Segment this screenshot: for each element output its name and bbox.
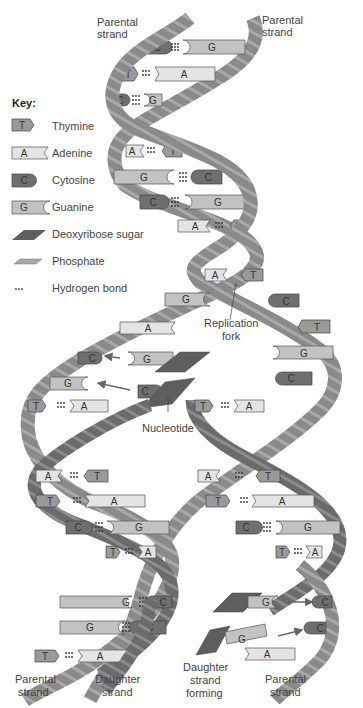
- label-parental-bottom-right-2: strand: [270, 686, 301, 698]
- svg-text:T: T: [33, 401, 39, 412]
- svg-text:C: C: [149, 197, 156, 208]
- svg-text:T: T: [42, 651, 48, 662]
- svg-text:T: T: [265, 471, 271, 482]
- svg-text:A: A: [246, 401, 253, 412]
- svg-text:G: G: [262, 597, 270, 608]
- key-label-thymine: Thymine: [52, 120, 94, 132]
- svg-text:T: T: [110, 547, 116, 558]
- thymine-icon: T: [12, 119, 34, 131]
- label-replication-fork-1: Replication: [204, 317, 258, 329]
- svg-text:G: G: [214, 197, 222, 208]
- label-parental-bottom-right-1: Parental: [265, 673, 306, 685]
- phosphate-icon: [14, 259, 42, 264]
- svg-text:G: G: [122, 597, 130, 608]
- svg-text:G: G: [300, 348, 308, 359]
- label-daughter-2: strand: [102, 686, 133, 698]
- svg-text:A: A: [145, 547, 152, 558]
- svg-text:G: G: [20, 202, 28, 213]
- svg-text:C: C: [74, 522, 81, 533]
- svg-text:A: A: [279, 496, 286, 507]
- key-title: Key:: [12, 97, 36, 109]
- svg-text:G: G: [140, 172, 148, 183]
- svg-text:T: T: [200, 401, 206, 412]
- svg-text:C: C: [159, 597, 166, 608]
- left-daughter-helix: T A A T T A C G T A G C G C T: [28, 400, 172, 690]
- label-daughter-1: Daughter: [95, 673, 141, 685]
- svg-text:A: A: [181, 69, 188, 80]
- key-label-adenine: Adenine: [52, 147, 92, 159]
- svg-text:G: G: [149, 95, 157, 106]
- svg-text:G: G: [64, 378, 72, 389]
- svg-text:C: C: [282, 296, 289, 307]
- label-daughter-forming-2: strand: [190, 674, 221, 686]
- svg-text:C: C: [287, 373, 294, 384]
- svg-text:G: G: [238, 634, 246, 645]
- svg-text:C: C: [141, 386, 148, 397]
- key-label-guanine: Guanine: [52, 201, 94, 213]
- svg-text:A: A: [21, 148, 28, 159]
- label-daughter-forming-3: forming: [186, 687, 223, 699]
- key-label-hydrogen-bond: Hydrogen bond: [52, 282, 127, 294]
- label-parental-top-left-2: strand: [97, 28, 128, 40]
- svg-text:A: A: [97, 651, 104, 662]
- svg-text:A: A: [111, 496, 118, 507]
- svg-text:C: C: [242, 522, 249, 533]
- svg-text:A: A: [192, 221, 199, 232]
- label-parental-bottom-left-1: Parental: [15, 673, 56, 685]
- svg-text:T: T: [279, 547, 285, 558]
- svg-text:T: T: [215, 496, 221, 507]
- key-label-phosphate: Phosphate: [52, 255, 105, 267]
- label-parental-top-left-1: Parental: [97, 16, 138, 28]
- svg-text:G: G: [182, 294, 190, 305]
- svg-text:C: C: [204, 172, 211, 183]
- guanine-icon: G: [12, 201, 50, 214]
- label-daughter-forming-1: Daughter: [183, 661, 229, 673]
- label-parental-top-right-2: strand: [262, 26, 293, 38]
- svg-text:T: T: [19, 120, 25, 131]
- hydrogen-bond-icon: [15, 288, 23, 290]
- key-label-cytosine: Cytosine: [52, 174, 95, 186]
- svg-text:T: T: [47, 496, 53, 507]
- svg-text:A: A: [205, 471, 212, 482]
- sugar-forming-2: [196, 626, 230, 655]
- label-parental-bottom-left-2: strand: [18, 686, 49, 698]
- svg-text:T: T: [314, 322, 320, 333]
- label-replication-fork-2: fork: [222, 330, 241, 342]
- svg-text:A: A: [312, 547, 319, 558]
- svg-text:A: A: [45, 471, 52, 482]
- label-parental-top-right-1: Parental: [262, 14, 303, 26]
- svg-text:C: C: [20, 175, 27, 186]
- cytosine-icon: C: [12, 174, 37, 187]
- adenine-icon: A: [12, 147, 48, 159]
- svg-text:C: C: [88, 353, 95, 364]
- sugar-icon: [12, 230, 46, 240]
- svg-text:T: T: [250, 270, 256, 281]
- svg-text:T: T: [94, 471, 100, 482]
- svg-text:A: A: [129, 146, 136, 157]
- svg-text:A: A: [145, 323, 152, 334]
- svg-text:G: G: [86, 622, 94, 633]
- key-label-sugar: Deoxyribose sugar: [52, 228, 144, 240]
- svg-text:A: A: [212, 270, 219, 281]
- svg-text:C: C: [321, 597, 328, 608]
- svg-text:A: A: [81, 401, 88, 412]
- svg-text:G: G: [304, 522, 312, 533]
- svg-text:G: G: [143, 354, 151, 365]
- svg-text:G: G: [135, 522, 143, 533]
- dna-replication-diagram: C G T A C G A T G C C G A: [0, 0, 363, 708]
- svg-text:G: G: [208, 42, 216, 53]
- label-nucleotide: Nucleotide: [142, 422, 194, 434]
- svg-text:A: A: [264, 649, 271, 660]
- svg-text:C: C: [316, 623, 323, 634]
